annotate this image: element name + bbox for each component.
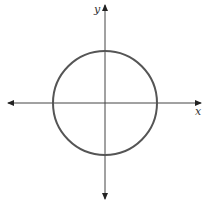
- x-axis-label: x: [195, 105, 202, 118]
- circle-diagram: y x: [0, 0, 204, 200]
- y-axis-label: y: [93, 3, 101, 16]
